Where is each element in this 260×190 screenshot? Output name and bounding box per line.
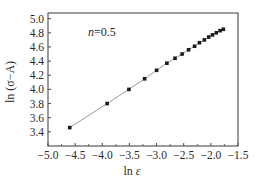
series-annotation: n=0.5	[88, 25, 116, 39]
x-tick-label: −3.0	[146, 149, 167, 161]
chart: −5.0−4.5−4.0−3.5−3.0−2.5−2.0−1.5 3.43.63…	[0, 0, 260, 190]
data-point	[127, 88, 131, 92]
data-point	[203, 38, 207, 42]
x-tick-label: −5.0	[38, 149, 59, 161]
y-tick-label: 3.8	[30, 98, 45, 110]
data-point	[207, 35, 211, 39]
y-tick-label: 3.4	[30, 126, 45, 138]
data-point	[155, 69, 159, 73]
y-tick-label: 4.2	[30, 69, 45, 81]
x-tick-label: −2.0	[200, 149, 221, 161]
y-tick-label: 4.6	[30, 41, 45, 53]
x-tick-label: −1.5	[228, 149, 249, 161]
data-point	[211, 33, 215, 37]
y-axis-label: ln (σ−A)	[3, 61, 17, 103]
y-tick-label: 5.0	[30, 13, 45, 25]
data-point	[180, 52, 184, 56]
data-point	[165, 61, 169, 65]
data-point	[214, 31, 218, 35]
y-tick-label: 4.4	[30, 55, 45, 67]
data-point	[218, 29, 222, 33]
data-point	[198, 41, 202, 45]
data-point	[193, 44, 197, 48]
data-point	[143, 77, 147, 81]
data-point	[187, 48, 191, 52]
x-tick-label: −4.0	[92, 149, 113, 161]
y-tick-label: 4.0	[30, 83, 45, 95]
data-point	[68, 126, 72, 130]
x-tick-label: −3.5	[119, 149, 140, 161]
x-tick-label: −2.5	[173, 149, 194, 161]
y-tick-label: 3.6	[30, 112, 45, 124]
x-tick-label: −4.5	[65, 149, 86, 161]
data-point	[222, 27, 226, 31]
data-point	[105, 102, 109, 106]
data-point	[173, 56, 177, 60]
x-axis-label: ln ε	[123, 164, 140, 178]
y-tick-label: 4.8	[30, 27, 45, 39]
